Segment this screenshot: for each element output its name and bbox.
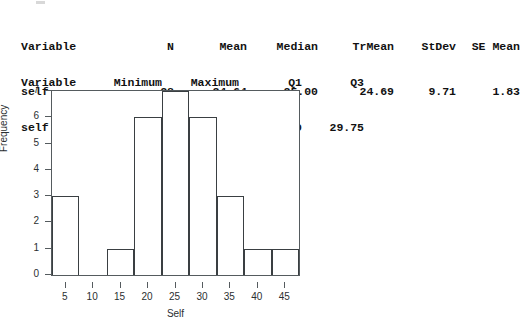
histogram-bar [107,249,134,275]
x-axis-tick [147,282,148,288]
y-axis-tick-label: 3 [17,190,39,200]
histogram-bar [217,196,244,275]
y-axis-tick-label: 2 [17,216,39,226]
x-axis-tick [175,282,176,288]
x-axis-title: Self [51,308,300,319]
y-axis-tick [45,248,51,249]
x-axis-tick-label: 25 [163,291,187,302]
x-axis-tick-label: 45 [272,291,296,302]
x-axis-tick [120,282,121,288]
x-axis-tick-label: 40 [245,291,269,302]
y-axis-tick-label: 7 [17,85,39,95]
y-axis-tick-label: 5 [17,138,39,148]
x-axis-tick [202,282,203,288]
x-axis-tick-label: 5 [53,291,77,302]
y-axis-title: Frequency [0,105,9,152]
histogram-bar [134,117,161,275]
histogram-bar [189,117,216,275]
plot-frame [51,90,300,276]
y-axis-tick [45,195,51,196]
y-axis-tick-label: 4 [17,164,39,174]
x-axis-tick [257,282,258,288]
x-axis-tick [284,282,285,288]
histogram-chart: Frequency 51015202530354045 Self 0123456… [0,84,340,332]
x-axis-tick-label: 35 [217,291,241,302]
x-axis-tick-label: 15 [108,291,132,302]
histogram-bar [244,249,271,275]
histogram-bar [272,249,299,275]
x-axis-tick-label: 10 [80,291,104,302]
bars-layer [52,91,299,275]
cell-stdev: 9.71 [394,84,456,99]
cell-se-mean: 1.83 [456,84,520,99]
x-axis-tick [65,282,66,288]
y-axis-tick [45,90,51,91]
y-axis-tick [45,221,51,222]
x-axis-tick [92,282,93,288]
y-axis-tick [45,116,51,117]
histogram-bar [52,196,79,275]
y-axis-tick-label: 6 [17,111,39,121]
y-axis-tick [45,169,51,170]
column-header-stdev: StDev [394,39,456,54]
column-header-se-mean: SE Mean [456,39,520,54]
y-axis-tick-label: 1 [17,243,39,253]
histogram-bar [162,91,189,275]
y-axis-tick-label: 0 [17,269,39,279]
x-axis-tick [229,282,230,288]
scan-artifact [36,1,45,4]
x-axis-tick-label: 20 [135,291,159,302]
y-axis-tick [45,274,51,275]
x-axis-tick-label: 30 [190,291,214,302]
y-axis-tick [45,143,51,144]
x-axis: 51015202530354045 [51,276,300,306]
